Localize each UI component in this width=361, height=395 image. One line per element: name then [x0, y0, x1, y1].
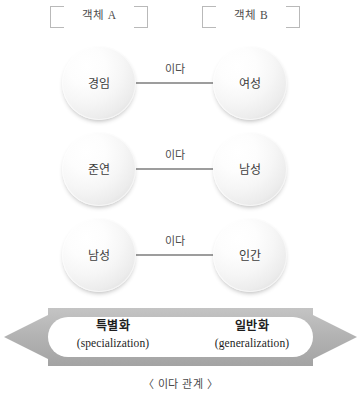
- entity-node-label: 준연: [88, 164, 111, 176]
- axis-label-en: (specialization): [38, 335, 188, 352]
- relation-label: 이다: [134, 232, 217, 248]
- column-header-object-b: 객체 B: [192, 4, 310, 28]
- entity-node-source[interactable]: 준연: [62, 132, 136, 206]
- relation-connector-line: [134, 168, 217, 170]
- entity-node-label: 여성: [239, 78, 262, 90]
- axis-label-en: (generalization): [177, 335, 327, 352]
- column-header-object-a: 객체 A: [40, 4, 158, 28]
- entity-node-label: 남성: [88, 250, 111, 262]
- relation-label: 이다: [134, 146, 217, 162]
- relation-connector-line: [134, 82, 217, 84]
- relation-row: 이다 준연 남성: [0, 126, 361, 212]
- entity-node-label: 인간: [239, 250, 262, 262]
- entity-node-label: 남성: [239, 164, 262, 176]
- figure-caption: 〈 이다 관계 〉: [0, 375, 361, 391]
- specialization-generalization-axis: 특별화 (specialization) 일반화 (generalization…: [4, 306, 357, 368]
- entity-node-source[interactable]: 남성: [62, 218, 136, 292]
- relation-label: 이다: [134, 60, 217, 76]
- entity-node-target[interactable]: 여성: [213, 46, 287, 120]
- axis-label-ko: 특별화: [38, 318, 188, 335]
- isa-relationship-diagram: 객체 A 객체 B 이다 경임 여성 이다 준연 남성 이다 남성: [0, 0, 361, 395]
- axis-label-generalization: 일반화 (generalization): [177, 318, 327, 352]
- column-header-label: 객체 A: [40, 7, 158, 24]
- axis-label-ko: 일반화: [177, 318, 327, 335]
- entity-node-source[interactable]: 경임: [62, 46, 136, 120]
- column-header-label: 객체 B: [192, 7, 310, 24]
- entity-node-target[interactable]: 남성: [213, 132, 287, 206]
- axis-label-specialization: 특별화 (specialization): [38, 318, 188, 352]
- entity-node-target[interactable]: 인간: [213, 218, 287, 292]
- relation-row: 이다 남성 인간: [0, 212, 361, 298]
- entity-node-label: 경임: [88, 78, 111, 90]
- relation-connector-line: [134, 254, 217, 256]
- relation-row: 이다 경임 여성: [0, 40, 361, 126]
